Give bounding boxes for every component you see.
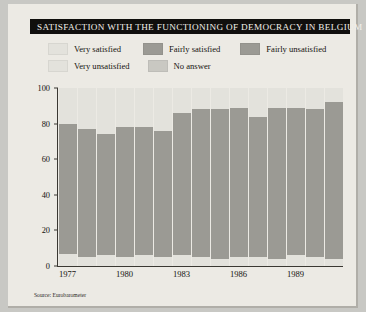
legend-swatch-icon xyxy=(148,60,168,72)
legend-swatch-icon xyxy=(240,43,260,55)
bar-1978 xyxy=(78,88,96,266)
bar-segment-very-unsatisfied xyxy=(268,88,286,108)
y-axis-tick xyxy=(54,88,58,89)
bar-segment-very-satisfied xyxy=(135,255,153,266)
legend-label: Very unsatisfied xyxy=(74,61,130,71)
bar-segment-very-unsatisfied xyxy=(116,88,134,127)
bar-segment-fairly-satisfied xyxy=(97,156,115,256)
source-note: Source: Eurobarometer xyxy=(34,292,86,298)
bar-segment-very-satisfied xyxy=(325,259,343,266)
bar-segment-fairly-unsatisfied xyxy=(192,109,210,139)
y-axis-tick xyxy=(54,159,58,160)
legend-item-no-answer: No answer xyxy=(148,60,211,72)
plot-area: 020406080100 19771980198319861989 xyxy=(32,88,344,278)
bar-segment-fairly-unsatisfied xyxy=(211,109,229,137)
bar-segment-very-unsatisfied xyxy=(211,88,229,109)
bar-segment-fairly-unsatisfied xyxy=(325,102,343,116)
bar-segment-very-satisfied xyxy=(116,257,134,266)
bar-1987 xyxy=(249,88,267,266)
bar-segment-very-satisfied xyxy=(211,259,229,266)
legend-item-very-unsatisfied: Very unsatisfied xyxy=(48,60,130,72)
bar-1989 xyxy=(287,88,305,266)
bar-segment-fairly-unsatisfied xyxy=(306,109,324,139)
y-axis-tick-label: 60 xyxy=(42,155,50,164)
bar-segment-fairly-unsatisfied xyxy=(287,108,305,126)
bar-segment-fairly-unsatisfied xyxy=(135,127,153,164)
bar-1980 xyxy=(116,88,134,266)
y-axis-tick xyxy=(54,266,58,267)
bar-1979 xyxy=(97,88,115,266)
bar-segment-fairly-satisfied xyxy=(268,127,286,259)
bar-series-container xyxy=(58,88,343,266)
bar-segment-fairly-satisfied xyxy=(192,140,210,257)
bar-1977 xyxy=(59,88,77,266)
bar-segment-very-unsatisfied xyxy=(249,88,267,116)
bar-segment-fairly-satisfied xyxy=(249,154,267,257)
bar-segment-very-satisfied xyxy=(249,257,267,266)
y-axis-tick-label: 80 xyxy=(42,119,50,128)
page-title: SATISFACTION WITH THE FUNCTIONING OF DEM… xyxy=(37,22,363,32)
bar-1982 xyxy=(154,88,172,266)
bar-segment-fairly-satisfied xyxy=(59,147,77,254)
legend-label: Very satisfied xyxy=(74,44,121,54)
x-axis-line xyxy=(57,266,343,267)
y-axis-tick-label: 100 xyxy=(37,84,50,93)
bar-segment-fairly-satisfied xyxy=(306,140,324,257)
bar-segment-fairly-unsatisfied xyxy=(173,113,191,138)
bar-segment-very-satisfied xyxy=(192,257,210,266)
x-axis-tick-label: 1980 xyxy=(116,269,133,279)
bar-segment-very-unsatisfied xyxy=(59,88,77,124)
bar-segment-fairly-satisfied xyxy=(230,136,248,257)
chart-legend: Very satisfiedFairly satisfiedFairly uns… xyxy=(48,40,348,74)
bar-1986 xyxy=(230,88,248,266)
bar-segment-fairly-satisfied xyxy=(135,165,153,256)
x-axis-labels: 19771980198319861989 xyxy=(58,269,343,285)
y-axis-tick xyxy=(54,123,58,124)
bar-segment-very-unsatisfied xyxy=(78,88,96,129)
bar-1985 xyxy=(211,88,229,266)
bar-segment-very-unsatisfied xyxy=(173,88,191,113)
screenshot-root: SATISFACTION WITH THE FUNCTIONING OF DEM… xyxy=(0,0,366,312)
legend-item-very-satisfied: Very satisfied xyxy=(48,43,121,55)
bar-segment-fairly-unsatisfied xyxy=(59,124,77,147)
x-axis-tick-label: 1983 xyxy=(173,269,190,279)
y-axis-tick-label: 0 xyxy=(46,262,50,271)
bar-segment-fairly-satisfied xyxy=(287,125,305,255)
bar-segment-very-satisfied xyxy=(306,257,324,266)
bar-segment-very-satisfied xyxy=(287,255,305,266)
bar-segment-very-satisfied xyxy=(59,254,77,266)
bar-segment-very-satisfied xyxy=(78,257,96,266)
bar-segment-fairly-unsatisfied xyxy=(154,131,172,154)
bar-segment-very-satisfied xyxy=(97,255,115,266)
bar-segment-very-satisfied xyxy=(268,259,286,266)
bar-segment-very-satisfied xyxy=(154,257,172,266)
bar-segment-fairly-satisfied xyxy=(116,166,134,257)
legend-swatch-icon xyxy=(48,60,68,72)
bar-1988 xyxy=(268,88,286,266)
legend-label: No answer xyxy=(174,61,211,71)
bar-1981 xyxy=(135,88,153,266)
legend-row-1: Very satisfiedFairly satisfiedFairly uns… xyxy=(48,40,348,57)
bar-1983 xyxy=(173,88,191,266)
bar-segment-very-unsatisfied xyxy=(154,88,172,131)
bar-segment-fairly-unsatisfied xyxy=(230,108,248,136)
bar-segment-very-unsatisfied xyxy=(230,88,248,108)
bar-1991 xyxy=(325,88,343,266)
bar-segment-very-satisfied xyxy=(173,255,191,266)
bar-segment-fairly-unsatisfied xyxy=(249,117,267,154)
figure-card: SATISFACTION WITH THE FUNCTIONING OF DEM… xyxy=(8,4,358,308)
bar-segment-fairly-unsatisfied xyxy=(268,108,286,128)
bar-segment-fairly-satisfied xyxy=(78,163,96,257)
y-axis-labels: 020406080100 xyxy=(32,88,54,266)
y-axis-tick xyxy=(54,194,58,195)
bar-1984 xyxy=(192,88,210,266)
legend-swatch-icon xyxy=(143,43,163,55)
bar-segment-fairly-unsatisfied xyxy=(78,129,96,163)
bar-segment-very-unsatisfied xyxy=(135,88,153,127)
bar-segment-very-satisfied xyxy=(230,257,248,266)
x-axis-tick-label: 1989 xyxy=(287,269,304,279)
bar-segment-very-unsatisfied xyxy=(287,88,305,108)
bar-segment-fairly-satisfied xyxy=(173,138,191,255)
bar-segment-fairly-unsatisfied xyxy=(116,127,134,166)
bar-segment-fairly-satisfied xyxy=(325,117,343,259)
